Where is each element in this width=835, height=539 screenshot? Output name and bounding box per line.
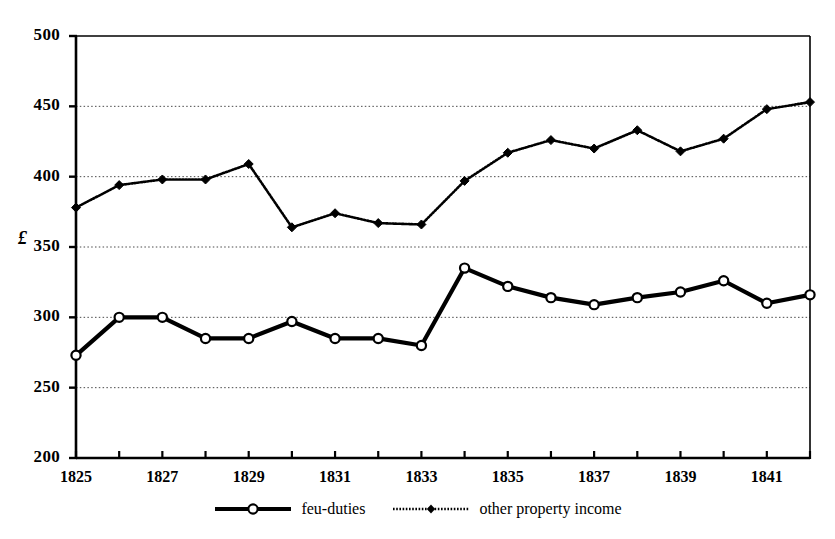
- data-point-marker: [72, 203, 81, 212]
- data-point-marker: [115, 313, 124, 322]
- legend-label-other-property-income: other property income: [479, 500, 621, 518]
- data-point-marker: [546, 293, 555, 302]
- data-point-marker: [806, 98, 815, 107]
- data-point-marker: [460, 264, 469, 273]
- data-point-marker: [590, 300, 599, 309]
- chart-figure: £ 200250300350400450500 1825182718291831…: [0, 0, 835, 539]
- series-other-property-income: [72, 98, 815, 232]
- gridlines: [76, 106, 810, 387]
- data-point-marker: [244, 334, 253, 343]
- data-point-marker: [719, 276, 728, 285]
- series-line: [76, 268, 810, 355]
- data-point-marker: [805, 290, 814, 299]
- legend-item-feu-duties[interactable]: feu-duties: [213, 500, 365, 518]
- plot-area: [0, 0, 835, 539]
- data-point-marker: [331, 209, 340, 218]
- data-point-marker: [590, 144, 599, 153]
- data-point-marker: [201, 334, 210, 343]
- data-point-marker: [762, 299, 771, 308]
- data-point-marker: [330, 334, 339, 343]
- data-point-marker: [633, 293, 642, 302]
- data-point-marker: [115, 181, 124, 190]
- data-point-marker: [503, 282, 512, 291]
- data-point-marker: [374, 334, 383, 343]
- legend-label-feu-duties: feu-duties: [301, 500, 365, 518]
- legend-swatch-dotted-diamond-icon: [391, 501, 471, 517]
- legend-item-other-property-income[interactable]: other property income: [391, 500, 621, 518]
- chart-legend: feu-duties other property income: [0, 494, 835, 524]
- data-point-marker: [417, 341, 426, 350]
- data-point-marker: [287, 317, 296, 326]
- series-line: [76, 102, 810, 227]
- data-series-layer: [71, 98, 814, 360]
- data-point-marker: [633, 126, 642, 135]
- data-point-marker: [676, 287, 685, 296]
- data-point-marker: [676, 147, 685, 156]
- legend-swatch-solid-circle-icon: [213, 501, 293, 517]
- data-point-marker: [158, 313, 167, 322]
- data-point-marker: [71, 351, 80, 360]
- data-point-marker: [546, 136, 555, 145]
- data-point-marker: [374, 219, 383, 228]
- data-point-marker: [158, 175, 167, 184]
- series-feu-duties: [71, 264, 814, 360]
